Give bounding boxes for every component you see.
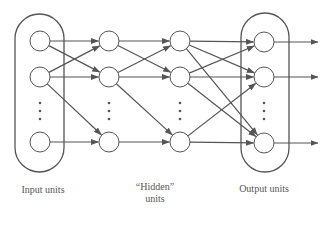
ellipsis-dot	[263, 118, 266, 121]
ellipsis-dot	[39, 102, 42, 105]
edge-arrow	[116, 84, 172, 135]
edge-arrow	[47, 84, 101, 135]
network-nodes	[30, 31, 274, 153]
hidden2-node-2	[170, 67, 190, 87]
ellipsis-dot	[108, 102, 111, 105]
hidden1-node-1	[99, 31, 119, 51]
ellipsis-dot	[108, 110, 111, 113]
ellipsis-dot	[39, 110, 42, 113]
edge-arrow	[186, 49, 257, 135]
hidden1-node-2	[99, 67, 119, 87]
ellipsis-dot	[39, 118, 42, 121]
connection-edges	[47, 41, 257, 143]
ellipsis-dot	[179, 110, 182, 113]
output-node-1	[254, 32, 274, 52]
hidden1-node-3	[99, 132, 119, 152]
hidden-units-label-line2: units	[120, 193, 190, 205]
hidden-units-label-line1: “Hidden”	[120, 181, 190, 193]
input-node-3	[30, 132, 50, 152]
hidden-units-label: “Hidden” units	[120, 181, 190, 205]
output-node-2	[254, 67, 274, 87]
hidden2-node-1	[170, 31, 190, 51]
ellipsis-dot	[108, 118, 111, 121]
hidden2-node-3	[170, 132, 190, 152]
output-node-3	[254, 133, 274, 153]
input-units-label: Input units	[13, 184, 73, 196]
output-units-label: Output units	[229, 183, 299, 195]
ellipsis-dot	[179, 102, 182, 105]
ellipsis-dot	[263, 102, 266, 105]
input-node-1	[30, 31, 50, 51]
input-node-2	[30, 67, 50, 87]
edge-arrow	[190, 142, 254, 143]
ellipsis-dot	[263, 110, 266, 113]
edge-arrow	[190, 41, 254, 42]
ellipsis-dot	[179, 118, 182, 121]
output-arrows	[274, 42, 318, 143]
